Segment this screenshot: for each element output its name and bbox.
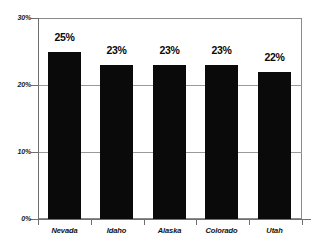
x-tick-5 bbox=[302, 220, 303, 225]
x-tick-2 bbox=[144, 220, 145, 225]
bar-value-idaho: 23% bbox=[92, 44, 141, 56]
y-axis-label-0: 0% bbox=[0, 215, 31, 222]
category-label-alaska: Alaska bbox=[145, 226, 194, 235]
y-axis-label-30: 30% bbox=[0, 14, 31, 21]
category-label-utah: Utah bbox=[250, 226, 299, 235]
y-tick-0 bbox=[31, 219, 38, 220]
x-tick-1 bbox=[91, 220, 92, 225]
category-label-colorado: Colorado bbox=[197, 226, 246, 235]
bar-value-alaska: 23% bbox=[145, 44, 194, 56]
category-label-idaho: Idaho bbox=[92, 226, 141, 235]
bar-alaska bbox=[153, 65, 186, 219]
y-tick-30 bbox=[31, 18, 38, 19]
y-tick-20 bbox=[31, 85, 38, 86]
category-label-nevada: Nevada bbox=[40, 226, 89, 235]
bar-value-nevada: 25% bbox=[40, 31, 89, 43]
y-axis-label-20: 20% bbox=[0, 81, 31, 88]
x-tick-4 bbox=[249, 220, 250, 225]
y-axis-line bbox=[38, 18, 39, 220]
bar-colorado bbox=[205, 65, 238, 219]
bar-utah bbox=[258, 72, 291, 219]
bar-value-colorado: 23% bbox=[197, 44, 246, 56]
bar-value-utah: 22% bbox=[250, 51, 299, 63]
x-tick-0 bbox=[38, 220, 39, 225]
y-axis-label-10: 10% bbox=[0, 148, 31, 155]
bar-idaho bbox=[100, 65, 133, 219]
x-axis-line bbox=[30, 219, 311, 220]
bar-nevada bbox=[48, 52, 81, 220]
bar-chart: 30% 20% 10% 0% 25% Nevada 23% Idaho 23% … bbox=[0, 0, 318, 250]
x-tick-3 bbox=[196, 220, 197, 225]
y-tick-10 bbox=[31, 152, 38, 153]
